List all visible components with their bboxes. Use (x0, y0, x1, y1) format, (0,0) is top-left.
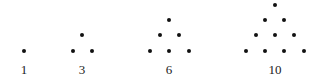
group-label: 10 (269, 63, 282, 76)
dot (158, 33, 162, 37)
dot (282, 18, 286, 22)
dot (263, 49, 267, 53)
dot (254, 33, 258, 37)
dot (273, 3, 277, 7)
dot (273, 33, 277, 37)
dot (187, 49, 191, 53)
dot (263, 18, 267, 22)
group-label: 3 (79, 63, 86, 76)
dot (292, 33, 296, 37)
group-label: 6 (166, 63, 173, 76)
dot (80, 33, 84, 37)
dot (244, 49, 248, 53)
dot (177, 33, 181, 37)
dot (148, 49, 152, 53)
dot (90, 49, 94, 53)
dot (167, 49, 171, 53)
triangular-numbers-figure: 13610 (0, 0, 324, 78)
dot (71, 49, 75, 53)
dot (22, 49, 26, 53)
dot (302, 49, 306, 53)
dot (282, 49, 286, 53)
dot (167, 18, 171, 22)
group-label: 1 (21, 63, 28, 76)
